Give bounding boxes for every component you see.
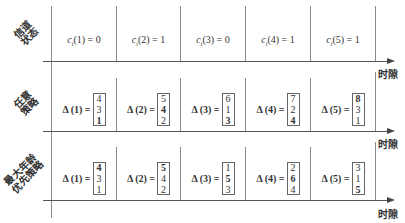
channel-cell-2: ct(2) = 1 — [117, 20, 180, 60]
row-label-arbitrary-policy: 任意 策略 — [11, 88, 41, 118]
age-matrix: 431 — [93, 93, 106, 126]
age-matrix: 264 — [287, 162, 300, 195]
channel-cell-4: ct(4) = 1 — [246, 20, 310, 60]
age-matrix: 431 — [93, 162, 106, 195]
time-slot-label: 时隙 — [378, 66, 398, 81]
time-slot-label: 时隙 — [378, 136, 398, 151]
channel-cell-5: ct(5) = 1 — [311, 20, 375, 60]
row-label-channel-state: 信道 状态 — [11, 18, 41, 48]
age-vector-cell-5: Δ (5) = 315 — [311, 157, 375, 199]
arrow-right-icon — [387, 197, 395, 203]
age-vector-cell-1: Δ (1) = 431 — [52, 88, 116, 130]
time-axis — [43, 131, 390, 132]
age-matrix: 315 — [352, 162, 365, 195]
row-label-max-age-first-policy: 最大年龄 优先策略 — [2, 151, 46, 195]
age-vector-cell-4: Δ (4) = 724 — [246, 88, 310, 130]
age-vector-cell-3: Δ (3) = 153 — [181, 157, 245, 199]
age-matrix: 542 — [157, 162, 170, 195]
age-vector-cell-1: Δ (1) = 431 — [52, 157, 116, 199]
age-matrix: 153 — [222, 162, 235, 195]
age-vector-cell-4: Δ (4) = 264 — [246, 157, 310, 199]
age-matrix: 831 — [352, 93, 365, 126]
channel-cell-1: ct(1) = 0 — [52, 20, 116, 60]
arrow-right-icon — [387, 58, 395, 64]
age-vector-cell-2: Δ (2) = 542 — [117, 157, 180, 199]
time-axis — [43, 61, 390, 62]
time-slot-label: 时隙 — [378, 206, 398, 221]
age-vector-cell-5: Δ (5) = 831 — [311, 88, 375, 130]
age-matrix: 613 — [222, 93, 235, 126]
slot-divider — [375, 6, 376, 61]
channel-cell-3: ct(3) = 0 — [181, 20, 245, 60]
time-axis — [43, 200, 390, 201]
arrow-right-icon — [387, 128, 395, 134]
age-matrix: 724 — [287, 93, 300, 126]
age-vector-cell-3: Δ (3) = 613 — [181, 88, 245, 130]
age-vector-cell-2: Δ (2) = 542 — [117, 88, 180, 130]
slot-divider — [375, 142, 376, 200]
age-matrix: 542 — [157, 93, 170, 126]
slot-divider — [375, 72, 376, 131]
